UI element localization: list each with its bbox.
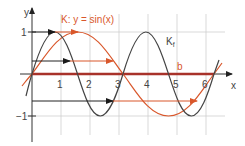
y-axis-label: y: [24, 7, 29, 18]
x-axis-label: x: [231, 80, 236, 91]
xtick-2: 2: [86, 79, 92, 90]
xtick-4: 4: [144, 79, 150, 90]
ytick-1: 1: [21, 27, 27, 38]
xtick-5: 5: [173, 79, 179, 90]
xtick-1: 1: [57, 79, 63, 90]
segment-b-label: b: [177, 61, 183, 72]
xtick-3: 3: [115, 79, 121, 90]
curve-k-label: K: y = sin(x): [61, 14, 114, 25]
sine-stretch-chart: y x 1 −1 1 2 3 4 5 6 K: y = sin(x) Kf b: [0, 0, 245, 146]
ytick-neg1: −1: [16, 111, 28, 122]
curve-kf-subscript: f: [173, 41, 175, 48]
xtick-6: 6: [202, 79, 208, 90]
curve-kf-label: Kf: [166, 36, 175, 48]
